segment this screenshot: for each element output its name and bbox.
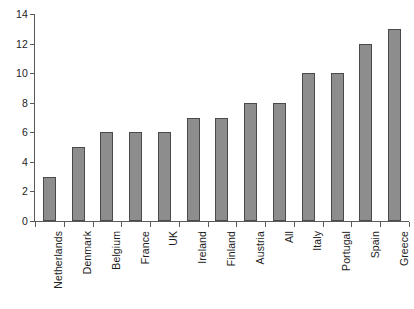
x-axis-labels: NetherlandsDenmarkBelgiumFranceUKIreland… <box>35 229 409 309</box>
x-axis-tick-mark <box>93 222 94 227</box>
bar <box>129 132 142 221</box>
x-axis-tick-mark <box>323 222 324 227</box>
x-axis-tick-label: France <box>140 231 151 264</box>
x-axis-tick-label: Greece <box>399 231 410 266</box>
bar-slot <box>265 14 294 221</box>
bar-slot <box>323 14 352 221</box>
x-axis-tick-label: Austria <box>255 231 266 264</box>
bar-slot <box>294 14 323 221</box>
bar-slot <box>179 14 208 221</box>
x-axis-label-slot: Italy <box>294 229 323 309</box>
y-axis-tick-label: 8 <box>22 97 28 108</box>
bar-slot <box>64 14 93 221</box>
bar-slot <box>150 14 179 221</box>
bar <box>100 132 113 221</box>
bar-slot <box>121 14 150 221</box>
bar-slot <box>351 14 380 221</box>
bar-slot <box>236 14 265 221</box>
x-axis-label-slot: Portugal <box>323 229 352 309</box>
bar-slot <box>380 14 409 221</box>
x-axis-tick-label: UK <box>168 231 179 246</box>
bar-slot <box>93 14 122 221</box>
y-axis-tick-mark <box>30 103 34 104</box>
x-axis-label-slot: Finland <box>208 229 237 309</box>
x-axis-label-slot: France <box>121 229 150 309</box>
bar <box>187 118 200 222</box>
y-axis-tick-label: 4 <box>22 157 28 168</box>
bar <box>215 118 228 222</box>
bar <box>158 132 171 221</box>
bar <box>43 177 56 221</box>
x-axis-tick-label: Italy <box>312 231 323 251</box>
plot-area <box>35 14 409 221</box>
x-axis-tick-mark <box>380 222 381 227</box>
bar <box>359 44 372 221</box>
bar <box>72 147 85 221</box>
x-axis-tick-label: Spain <box>370 231 381 258</box>
bar-slot <box>35 14 64 221</box>
x-axis-tick-label: Ireland <box>197 231 208 264</box>
bar-series <box>35 14 409 221</box>
x-axis-label-slot: Netherlands <box>35 229 64 309</box>
bar <box>331 73 344 221</box>
x-axis-tick-mark <box>409 222 410 227</box>
x-axis-tick-label: Finland <box>226 231 237 266</box>
x-axis-tick-mark <box>294 222 295 227</box>
x-axis-tick-label: All <box>284 231 295 243</box>
y-axis-tick-mark <box>30 44 34 45</box>
bar <box>244 103 257 221</box>
x-axis-label-slot: UK <box>150 229 179 309</box>
x-axis-tick-mark <box>150 222 151 227</box>
y-axis-tick-mark <box>30 14 34 15</box>
x-axis-tick-mark <box>35 222 36 227</box>
x-axis-label-slot: Ireland <box>179 229 208 309</box>
x-axis-label-slot: Austria <box>236 229 265 309</box>
y-axis-tick-label: 10 <box>16 68 28 79</box>
x-axis-tick-mark <box>64 222 65 227</box>
x-axis-label-slot: Belgium <box>93 229 122 309</box>
x-axis-tick-label: Netherlands <box>53 231 64 289</box>
x-axis-tick-mark <box>265 222 266 227</box>
x-axis-label-slot: All <box>265 229 294 309</box>
x-axis-tick-mark <box>351 222 352 227</box>
x-axis-tick-label: Portugal <box>341 231 352 271</box>
x-axis-tick-mark <box>208 222 209 227</box>
x-axis-tick-label: Belgium <box>111 231 122 270</box>
y-axis-tick-mark <box>30 73 34 74</box>
x-axis-ticks <box>35 222 409 227</box>
bar-chart: 02468101214 NetherlandsDenmarkBelgiumFra… <box>0 0 414 309</box>
bar <box>273 103 286 221</box>
y-axis-tick-mark <box>30 132 34 133</box>
y-axis-tick-mark <box>30 191 34 192</box>
y-axis-tick-label: 2 <box>22 186 28 197</box>
x-axis-tick-mark <box>179 222 180 227</box>
y-axis-tick-label: 14 <box>16 9 28 20</box>
x-axis-label-slot: Greece <box>380 229 409 309</box>
x-axis-label-slot: Denmark <box>64 229 93 309</box>
y-axis-tick-label: 12 <box>16 38 28 49</box>
y-axis-tick-mark <box>30 162 34 163</box>
y-axis-tick-label: 6 <box>22 127 28 138</box>
y-axis-tick-mark <box>30 221 34 222</box>
bar <box>388 29 401 221</box>
y-axis: 02468101214 <box>0 14 34 228</box>
bar-slot <box>208 14 237 221</box>
x-axis-tick-mark <box>236 222 237 227</box>
x-axis-tick-mark <box>121 222 122 227</box>
x-axis-label-slot: Spain <box>351 229 380 309</box>
bar <box>302 73 315 221</box>
y-axis-tick-label: 0 <box>22 216 28 227</box>
x-axis-tick-label: Denmark <box>82 231 93 274</box>
